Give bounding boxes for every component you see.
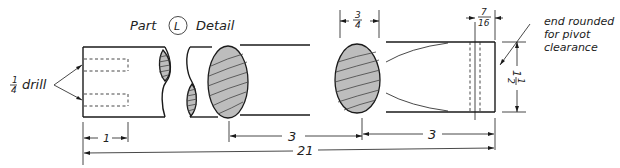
title-prefix: Part [130, 18, 157, 33]
end-note-line3: clearance [544, 41, 598, 54]
cross-section-1 [208, 46, 248, 118]
dim-height-den: 2 [506, 78, 516, 84]
dim-pivot-offset: 7 16 [466, 7, 503, 40]
drill-hole-lower [84, 94, 128, 106]
dim-overall-length: 21 [84, 143, 494, 158]
dim-overall-length-value: 21 [297, 143, 314, 158]
drawing-title: Part L Detail [130, 17, 235, 35]
middle-rod-segment [240, 45, 310, 115]
title-part-letter: L [174, 20, 180, 33]
dim-section-spacing-1-value: 3 [288, 129, 296, 144]
end-note-line1: end rounded [544, 15, 615, 28]
drill-fraction-den: 4 [11, 85, 17, 95]
dim-section-spacing-2-value: 3 [428, 127, 436, 142]
end-note-line2: for pivot [544, 28, 591, 41]
dim-height-whole: 1 [510, 70, 523, 77]
dim-height: 1 1 2 [502, 42, 526, 112]
end-note-leader [500, 24, 530, 65]
dim-height-num: 1 [516, 78, 526, 84]
dim-hole-depth-value: 1 [103, 132, 110, 145]
drill-fraction-num: 1 [12, 75, 18, 85]
dim-section-width-den: 4 [355, 20, 361, 30]
drill-hole-upper [84, 59, 128, 71]
right-rod-segment [386, 22, 495, 120]
dim-section-width-num: 3 [355, 10, 361, 20]
left-rod-segment [83, 47, 170, 117]
drill-label: drill [22, 77, 47, 92]
dim-section-width: 3 4 [340, 10, 379, 38]
dim-section-spacing-2: 3 [362, 118, 495, 150]
dim-section-spacing-1: 3 [229, 121, 362, 144]
cross-section-2 [335, 44, 380, 113]
title-suffix: Detail [196, 18, 235, 33]
part-detail-drawing: Part L Detail [0, 0, 620, 168]
drill-note: 1 4 drill [10, 65, 82, 100]
dim-pivot-offset-num: 7 [481, 7, 487, 17]
dim-pivot-offset-den: 16 [478, 18, 490, 28]
dim-hole-depth: 1 [83, 122, 128, 165]
